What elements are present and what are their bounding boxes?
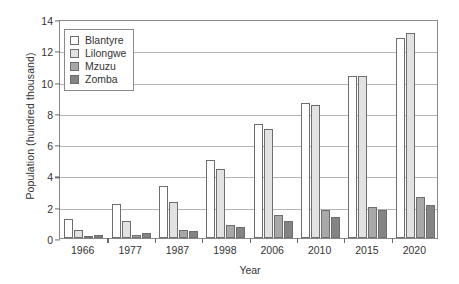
bar-zomba-2010[interactable] bbox=[331, 217, 340, 238]
x-tick-mark bbox=[392, 238, 393, 243]
bar-mzuzu-2006[interactable] bbox=[274, 215, 283, 238]
legend-swatch-icon-mzuzu bbox=[70, 62, 79, 71]
bar-lilongwe-2015[interactable] bbox=[358, 76, 367, 238]
bar-zomba-2006[interactable] bbox=[284, 221, 293, 238]
bar-mzuzu-2010[interactable] bbox=[321, 210, 330, 238]
x-tick-label-2010: 2010 bbox=[308, 244, 331, 256]
legend-label: Zomba bbox=[85, 73, 118, 86]
population-bar-chart: Population (hundred thousand) 0246810121… bbox=[0, 0, 459, 284]
x-tick-label-2015: 2015 bbox=[355, 244, 378, 256]
bar-blantyre-1987[interactable] bbox=[159, 186, 168, 238]
bar-lilongwe-2020[interactable] bbox=[406, 33, 415, 238]
bar-group bbox=[155, 21, 202, 238]
bar-lilongwe-1998[interactable] bbox=[216, 169, 225, 238]
bar-mzuzu-1966[interactable] bbox=[84, 236, 93, 238]
bar-group bbox=[392, 21, 439, 238]
x-tick-mark bbox=[344, 238, 345, 243]
bar-mzuzu-2015[interactable] bbox=[368, 207, 377, 238]
legend-item-lilongwe[interactable]: Lilongwe bbox=[70, 47, 126, 60]
bar-blantyre-1966[interactable] bbox=[64, 219, 73, 238]
bar-lilongwe-1977[interactable] bbox=[122, 221, 131, 238]
x-tick-mark bbox=[250, 238, 251, 243]
bar-group bbox=[202, 21, 249, 238]
bar-blantyre-2015[interactable] bbox=[348, 76, 357, 238]
bar-zomba-1977[interactable] bbox=[142, 233, 151, 238]
x-tick-label-1966: 1966 bbox=[71, 244, 94, 256]
bar-lilongwe-1966[interactable] bbox=[74, 230, 83, 238]
legend-item-blantyre[interactable]: Blantyre bbox=[70, 34, 126, 47]
bar-lilongwe-1987[interactable] bbox=[169, 202, 178, 238]
bar-blantyre-2006[interactable] bbox=[254, 124, 263, 238]
legend-swatch-icon-lilongwe bbox=[70, 49, 79, 58]
legend-item-mzuzu[interactable]: Mzuzu bbox=[70, 60, 126, 73]
bar-blantyre-1998[interactable] bbox=[206, 160, 215, 238]
x-tick-label-2006: 2006 bbox=[261, 244, 284, 256]
x-tick-label-1987: 1987 bbox=[166, 244, 189, 256]
legend-label: Blantyre bbox=[85, 34, 124, 47]
bar-lilongwe-2010[interactable] bbox=[311, 105, 320, 238]
x-axis-title: Year bbox=[60, 264, 440, 276]
y-axis-title: Population (hundred thousand) bbox=[24, 6, 36, 246]
bar-blantyre-1977[interactable] bbox=[112, 204, 121, 238]
legend-item-zomba[interactable]: Zomba bbox=[70, 73, 126, 86]
bar-zomba-2020[interactable] bbox=[426, 205, 435, 238]
bar-mzuzu-1977[interactable] bbox=[132, 235, 141, 238]
chart-legend: BlantyreLilongweMzuzuZomba bbox=[64, 29, 134, 91]
bar-zomba-1987[interactable] bbox=[189, 231, 198, 238]
bar-mzuzu-1998[interactable] bbox=[226, 225, 235, 238]
bar-zomba-2015[interactable] bbox=[378, 210, 387, 238]
bar-group bbox=[297, 21, 344, 238]
legend-label: Mzuzu bbox=[85, 60, 116, 73]
x-tick-label-1977: 1977 bbox=[118, 244, 141, 256]
bar-zomba-1998[interactable] bbox=[236, 227, 245, 238]
x-tick-mark bbox=[107, 238, 108, 243]
x-tick-mark bbox=[155, 238, 156, 243]
x-tick-label-1998: 1998 bbox=[213, 244, 236, 256]
bar-group bbox=[250, 21, 297, 238]
x-tick-mark bbox=[202, 238, 203, 243]
x-tick-label-2020: 2020 bbox=[403, 244, 426, 256]
x-tick-mark bbox=[297, 238, 298, 243]
bar-zomba-1966[interactable] bbox=[94, 235, 103, 238]
legend-swatch-icon-zomba bbox=[70, 75, 79, 84]
y-tick-mark bbox=[55, 239, 60, 240]
bar-blantyre-2010[interactable] bbox=[301, 103, 310, 238]
bar-mzuzu-1987[interactable] bbox=[179, 230, 188, 238]
bar-mzuzu-2020[interactable] bbox=[416, 197, 425, 238]
bar-blantyre-2020[interactable] bbox=[396, 38, 405, 238]
bar-group bbox=[344, 21, 391, 238]
bar-lilongwe-2006[interactable] bbox=[264, 129, 273, 239]
legend-swatch-icon-blantyre bbox=[70, 36, 79, 45]
legend-label: Lilongwe bbox=[85, 47, 126, 60]
